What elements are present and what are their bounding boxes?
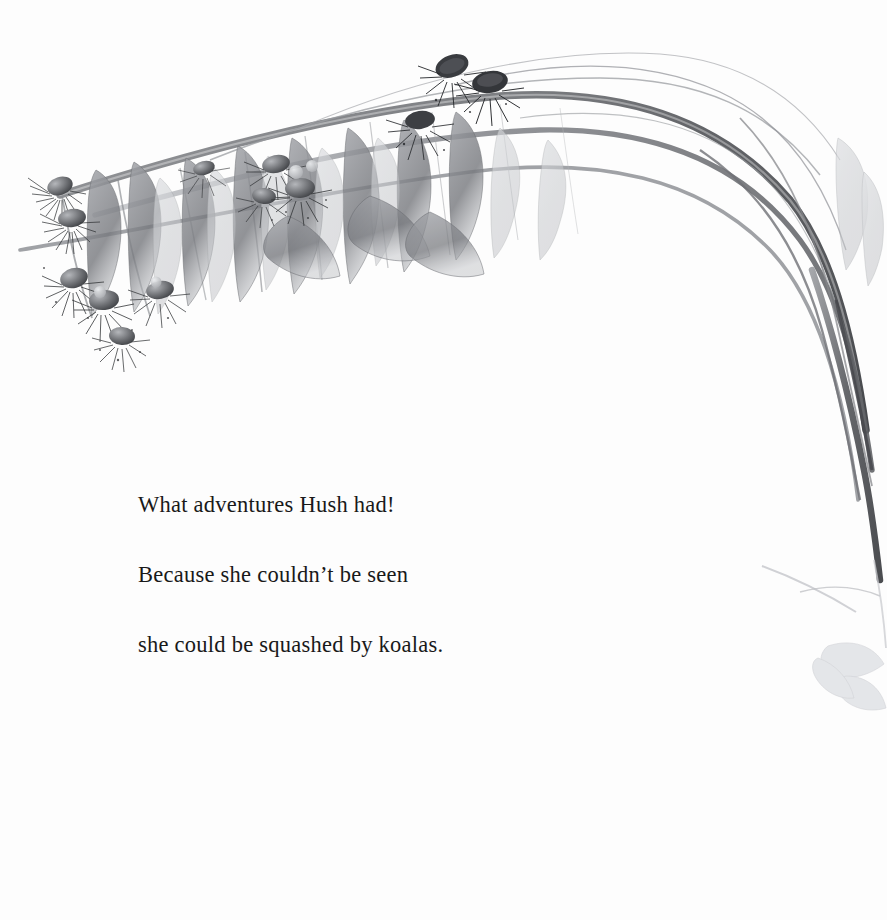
- caption-line-1: What adventures Hush had!: [138, 487, 558, 522]
- blossom-cluster-lower-left: [42, 265, 190, 372]
- blossom-cluster-top: [386, 50, 524, 160]
- caption-line-2: Because she couldn’t be seen: [138, 557, 558, 592]
- leaf-group-right-edge: [836, 138, 883, 286]
- gum-blossom-clusters: [28, 50, 524, 372]
- blossom-cluster-mid: [236, 152, 332, 228]
- caption-line-3: she could be squashed by koalas.: [138, 627, 558, 662]
- blossom-small-left-mid: [178, 159, 230, 198]
- leaf-group-faint-lower-right: [762, 560, 886, 710]
- picture-book-page: What adventures Hush had! Because she co…: [0, 0, 887, 920]
- blossom-cluster-left: [28, 173, 100, 254]
- leaf-group-upper: [87, 112, 566, 316]
- caption-text: What adventures Hush had! Because she co…: [138, 452, 558, 697]
